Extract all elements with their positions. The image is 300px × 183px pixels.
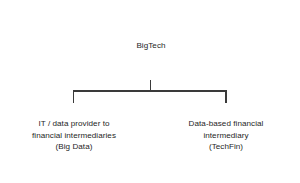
node-techfin-label: Data-based financial intermediary (TechF… bbox=[186, 118, 267, 153]
node-techfin[interactable]: Data-based financial intermediary (TechF… bbox=[163, 103, 289, 168]
node-big-data-label: IT / data provider to financial intermed… bbox=[29, 118, 119, 153]
node-bigtech-label: BigTech bbox=[133, 40, 168, 52]
node-bigtech[interactable]: BigTech bbox=[88, 11, 214, 80]
node-big-data[interactable]: IT / data provider to financial intermed… bbox=[11, 103, 137, 168]
diagram-canvas: BigTech IT / data provider to financial … bbox=[0, 0, 300, 183]
